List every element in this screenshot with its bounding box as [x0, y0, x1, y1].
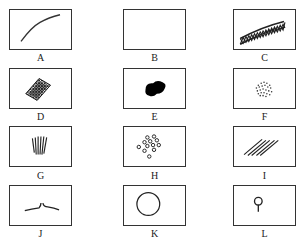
peaked-arcs-icon: [10, 186, 71, 225]
blob-icon: [124, 69, 185, 108]
label-i: I: [233, 171, 296, 181]
curved-line-icon: [10, 10, 71, 49]
circle-icon: [124, 186, 185, 225]
panel-j: [9, 185, 72, 226]
dot-cluster-icon: [234, 69, 295, 108]
crosshatch-patch-icon: [10, 69, 71, 108]
label-c: C: [233, 53, 296, 63]
label-j: J: [9, 229, 72, 239]
label-h: H: [123, 171, 186, 181]
panel-c: [233, 9, 296, 50]
diagonal-lines-icon: [234, 127, 295, 166]
panel-d: [9, 68, 72, 109]
label-k: K: [123, 229, 186, 239]
lattice-band-icon: [234, 10, 295, 49]
panel-l: [233, 185, 296, 226]
panel-b: [123, 9, 186, 50]
label-l: L: [233, 229, 296, 239]
label-g: G: [9, 171, 72, 181]
label-f: F: [233, 112, 296, 122]
ring-cluster-icon: [124, 127, 185, 166]
panel-f: [233, 68, 296, 109]
label-e: E: [123, 112, 186, 122]
label-a: A: [9, 53, 72, 63]
ring-on-stalk-icon: [234, 186, 295, 225]
line-fan-icon: [10, 127, 71, 166]
panel-e: [123, 68, 186, 109]
panel-h: [123, 126, 186, 167]
panel-a: [9, 9, 72, 50]
label-b: B: [123, 53, 186, 63]
label-d: D: [9, 112, 72, 122]
panel-g: [9, 126, 72, 167]
panel-i: [233, 126, 296, 167]
panel-k: [123, 185, 186, 226]
